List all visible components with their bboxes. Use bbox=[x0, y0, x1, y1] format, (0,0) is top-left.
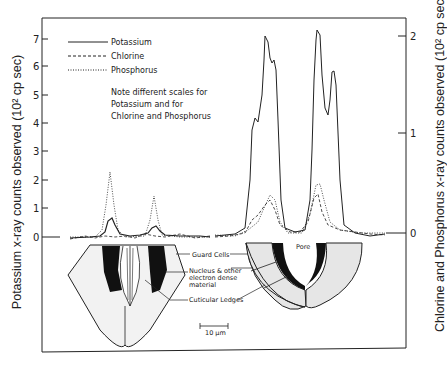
svg-text:Phosphorus: Phosphorus bbox=[111, 66, 158, 75]
svg-text:2: 2 bbox=[33, 175, 39, 186]
svg-text:7: 7 bbox=[33, 34, 39, 45]
svg-text:Chlorine: Chlorine bbox=[111, 52, 144, 61]
svg-text:0: 0 bbox=[33, 232, 39, 243]
svg-text:1: 1 bbox=[410, 128, 416, 139]
right-axis-tick-labels: 2 1 0 bbox=[410, 31, 416, 239]
svg-text:Potassium: Potassium bbox=[111, 38, 152, 47]
open-stoma-diagram: Pore bbox=[246, 243, 362, 309]
svg-text:Chlorine and Phosphorus: Chlorine and Phosphorus bbox=[111, 112, 211, 121]
scale-note: Note different scales for Potassium and … bbox=[111, 88, 211, 121]
svg-text:1: 1 bbox=[33, 203, 39, 214]
legend: Potassium Chlorine Phosphorus bbox=[68, 38, 158, 75]
potassium-trace-open bbox=[215, 30, 385, 236]
potassium-trace-closed bbox=[70, 218, 210, 238]
diagram-labels: Guard Cells Nucleus & other electron den… bbox=[189, 251, 244, 304]
phosphorus-trace-open bbox=[215, 184, 385, 236]
svg-text:Note different scales for: Note different scales for bbox=[111, 88, 208, 97]
svg-text:10 μm: 10 μm bbox=[205, 329, 226, 337]
right-axis-ticks bbox=[386, 36, 406, 233]
phosphorus-trace-closed bbox=[70, 172, 210, 237]
open-stoma-traces bbox=[215, 30, 385, 237]
left-axis-ticks bbox=[42, 39, 60, 237]
svg-text:4: 4 bbox=[33, 118, 39, 129]
svg-text:Potassium and for: Potassium and for bbox=[111, 100, 184, 109]
svg-text:material: material bbox=[189, 281, 216, 289]
svg-text:Guard Cells: Guard Cells bbox=[192, 251, 230, 259]
pore-label: Pore bbox=[296, 243, 310, 251]
svg-text:0: 0 bbox=[410, 228, 416, 239]
closed-stoma-diagram bbox=[68, 245, 185, 347]
svg-text:3: 3 bbox=[33, 146, 39, 157]
svg-text:2: 2 bbox=[410, 31, 416, 42]
scale-bar: 10 μm bbox=[200, 323, 228, 337]
closed-stoma-traces bbox=[70, 172, 210, 239]
svg-text:5: 5 bbox=[33, 90, 39, 101]
svg-text:Cuticular Ledges: Cuticular Ledges bbox=[189, 296, 244, 304]
svg-text:6: 6 bbox=[33, 61, 39, 72]
left-axis-tick-labels: 7 6 5 4 3 2 1 0 bbox=[33, 34, 39, 243]
